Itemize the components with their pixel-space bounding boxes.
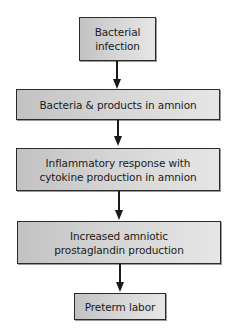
node-text-line: Preterm labor [85, 300, 155, 314]
node-bacterial-infection: Bacterial infection [79, 17, 156, 61]
node-text-line: infection [95, 39, 141, 53]
node-text-line: Bacterial [95, 25, 141, 39]
node-inflammatory-response: Inflammatory response with cytokine prod… [16, 148, 220, 191]
node-preterm-labor: Preterm labor [74, 293, 166, 320]
node-text-line: prostaglandin production [54, 243, 183, 257]
node-bacteria-products-amnion: Bacteria & products in amnion [16, 89, 220, 120]
node-text-line: cytokine production in amnion [39, 170, 196, 184]
node-text-line: Inflammatory response with [39, 156, 196, 170]
node-text-line: Increased amniotic [54, 229, 183, 243]
node-text-line: Bacteria & products in amnion [39, 98, 196, 112]
node-prostaglandin-production: Increased amniotic prostaglandin product… [17, 221, 221, 264]
